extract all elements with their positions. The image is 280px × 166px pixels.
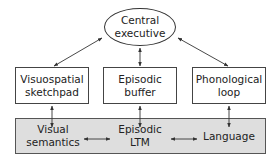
central-executive-line2: executive <box>115 27 166 40</box>
episodic-ltm-line1: Episodic <box>118 123 161 136</box>
visuospatial-line1: Visuospatial <box>20 73 83 86</box>
working-memory-diagram: Central executive Visuospatial sketchpad… <box>0 0 280 166</box>
language-line1: Language <box>203 130 255 143</box>
visual-semantics-line1: Visual <box>26 123 80 136</box>
episodic-ltm-line2: LTM <box>118 136 161 149</box>
central-executive-node: Central executive <box>104 8 176 46</box>
phonological-loop-box: Phonological loop <box>192 67 266 104</box>
language-label: Language <box>196 120 262 152</box>
arrow-ce-pl <box>178 38 228 66</box>
episodic-buffer-box: Episodic buffer <box>103 67 177 104</box>
visuospatial-sketchpad-box: Visuospatial sketchpad <box>15 67 89 104</box>
phonological-line2: loop <box>196 86 263 99</box>
arrow-ce-vs <box>54 38 102 66</box>
central-executive-line1: Central <box>115 14 166 27</box>
visuospatial-line2: sketchpad <box>20 86 83 99</box>
episodic-buffer-line2: buffer <box>118 86 161 99</box>
visual-semantics-line2: semantics <box>26 136 80 149</box>
visual-semantics-label: Visual semantics <box>22 120 84 152</box>
phonological-line1: Phonological <box>196 73 263 86</box>
episodic-buffer-line1: Episodic <box>118 73 161 86</box>
episodic-ltm-label: Episodic LTM <box>110 120 170 152</box>
